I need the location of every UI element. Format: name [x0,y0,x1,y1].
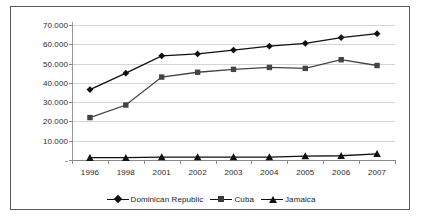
gridline [72,64,395,65]
y-axis-tick-labels: 70.00060.00050.00040.00030.00020.00010.0… [0,0,68,222]
x-axis-tick-label: 2002 [189,168,207,177]
y-axis-tick-label: 50.000 [43,59,68,68]
gridline [72,102,395,103]
x-axis-tick-mark [395,160,396,164]
y-axis-tick-mark [69,64,73,65]
y-axis-tick-label: 10.000 [43,136,68,145]
x-axis-tick-label: 1998 [117,168,135,177]
x-axis-tick-label: 2006 [332,168,350,177]
legend-item[interactable]: Dominican Republic [107,195,204,204]
y-axis-tick-mark [69,44,73,45]
chart-legend: Dominican RepublicCubaJamaica [0,191,422,207]
x-axis-tick-mark [287,160,288,164]
gridline [72,121,395,122]
x-axis-tick-mark [323,160,324,164]
x-axis-tick-label: 1996 [81,168,99,177]
y-axis-tick-label: 20.000 [43,117,68,126]
y-axis-tick-label: 40.000 [43,78,68,87]
x-axis-tick-label: 2001 [153,168,171,177]
legend-square-icon [210,195,232,204]
plot-area [72,25,395,160]
gridline [72,44,395,45]
x-axis-tick-mark [144,160,145,164]
x-axis-tick-mark [72,160,73,164]
x-axis-tick-label: 2004 [260,168,278,177]
y-axis-tick-label: 30.000 [43,98,68,107]
legend-item[interactable]: Cuba [210,195,254,204]
x-axis-tick-mark [251,160,252,164]
y-axis-tick-label: 70.000 [43,21,68,30]
x-axis-tick-mark [216,160,217,164]
y-axis-tick-label: - [65,156,68,165]
legend-item-label: Dominican Republic [131,195,204,204]
legend-item-label: Jamaica [285,195,316,204]
x-axis-tick-label: 2005 [296,168,314,177]
legend-item[interactable]: Jamaica [261,195,316,204]
y-axis-tick-mark [69,83,73,84]
x-axis-tick-mark [180,160,181,164]
chart-container: 70.00060.00050.00040.00030.00020.00010.0… [0,0,422,222]
gridline [72,141,395,142]
y-axis-tick-mark [69,141,73,142]
x-axis-tick-mark [108,160,109,164]
gridline [72,83,395,84]
y-axis-tick-mark [69,102,73,103]
y-axis-tick-mark [69,25,73,26]
x-axis-tick-mark [359,160,360,164]
legend-triangle-icon [261,195,283,204]
x-axis-tick-label: 2003 [224,168,242,177]
gridline [72,25,395,26]
x-axis-tick-label: 2007 [368,168,386,177]
y-axis-tick-mark [69,121,73,122]
y-axis-tick-label: 60.000 [43,40,68,49]
legend-item-label: Cuba [234,195,254,204]
x-axis-line [72,160,396,161]
legend-diamond-icon [107,195,129,204]
